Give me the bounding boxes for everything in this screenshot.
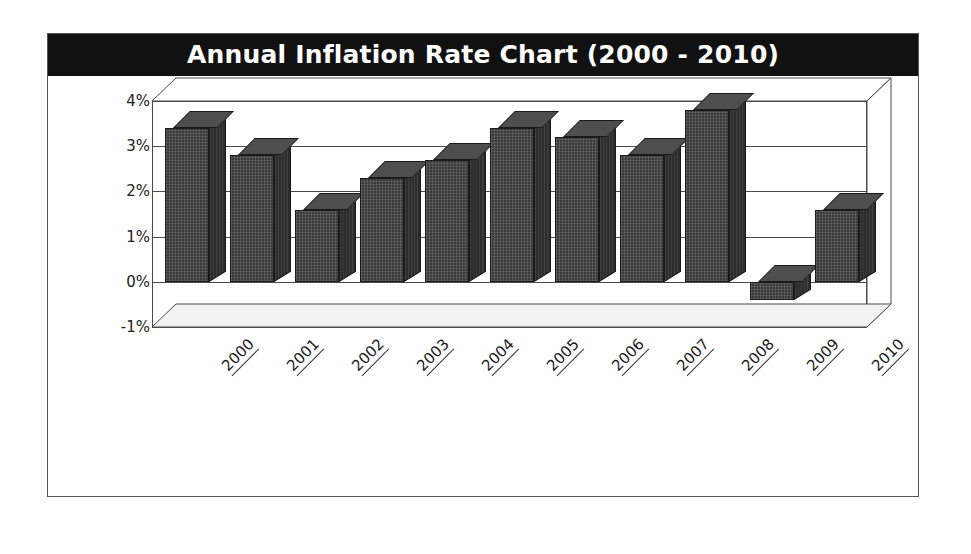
bar-front-face: [360, 178, 404, 282]
bar-2002[interactable]: [295, 210, 339, 282]
x-axis-tick-label-2010: 2010: [868, 335, 909, 376]
bar-front-face: [165, 128, 209, 282]
bar-2004[interactable]: [425, 160, 469, 282]
x-axis-tick-label-2000: 2000: [218, 335, 259, 376]
chart-frame: Annual Inflation Rate Chart (2000 - 2010…: [47, 33, 919, 497]
bar-side-face: [859, 199, 876, 282]
x-axis-tick-label-2004: 2004: [478, 335, 519, 376]
bar-front-face: [490, 128, 534, 282]
y-axis-tick-label: -1%: [102, 318, 150, 336]
bar-2003[interactable]: [360, 178, 404, 282]
bar-side-face: [599, 127, 616, 282]
bar-side-face: [274, 145, 291, 282]
x-axis-tick-label-2008: 2008: [738, 335, 779, 376]
bar-side-face: [664, 145, 681, 282]
y-axis-tick-label: 4%: [102, 92, 150, 110]
bar-2000[interactable]: [165, 128, 209, 282]
bar-2007[interactable]: [620, 155, 664, 282]
x-axis-tick-label-2006: 2006: [608, 335, 649, 376]
bar-front-face: [685, 110, 729, 282]
bar-front-face: [555, 137, 599, 282]
bar-series: [152, 101, 867, 327]
bar-front-face: [815, 210, 859, 282]
bar-2009[interactable]: [750, 282, 794, 300]
y-axis-tick-label: 2%: [102, 182, 150, 200]
y-axis-tick-label: 3%: [102, 137, 150, 155]
bar-2010[interactable]: [815, 210, 859, 282]
x-axis-tick-label-2007: 2007: [673, 335, 714, 376]
x-axis-tick-label-2001: 2001: [283, 335, 324, 376]
bar-2008[interactable]: [685, 110, 729, 282]
bar-2005[interactable]: [490, 128, 534, 282]
chart-title: Annual Inflation Rate Chart (2000 - 2010…: [48, 34, 918, 76]
bar-side-face: [339, 199, 356, 282]
bar-front-face: [750, 282, 794, 300]
bar-side-face: [209, 118, 226, 282]
chart-title-bar: Annual Inflation Rate Chart (2000 - 2010…: [48, 34, 918, 76]
y-axis-labels: 4%3%2%1%0%-1%: [94, 101, 150, 327]
bar-2001[interactable]: [230, 155, 274, 282]
x-axis-tick-label-2005: 2005: [543, 335, 584, 376]
x-axis-tick-label-2009: 2009: [803, 335, 844, 376]
y-axis-tick-label: 1%: [102, 228, 150, 246]
x-axis-tick-label-2002: 2002: [348, 335, 389, 376]
plot-area: 4%3%2%1%0%-1% 20002001200220032004200520…: [48, 76, 920, 497]
bar-front-face: [230, 155, 274, 282]
bar-side-face: [469, 149, 486, 282]
bar-side-face: [729, 99, 746, 281]
bar-front-face: [425, 160, 469, 282]
bar-front-face: [295, 210, 339, 282]
y-axis-tick-label: 0%: [102, 273, 150, 291]
bar-2006[interactable]: [555, 137, 599, 282]
x-axis-labels: 2000200120022003200420052006200720082009…: [152, 327, 912, 447]
bar-front-face: [620, 155, 664, 282]
bar-side-face: [534, 118, 551, 282]
bar-side-face: [404, 167, 421, 282]
x-axis-tick-label-2003: 2003: [413, 335, 454, 376]
